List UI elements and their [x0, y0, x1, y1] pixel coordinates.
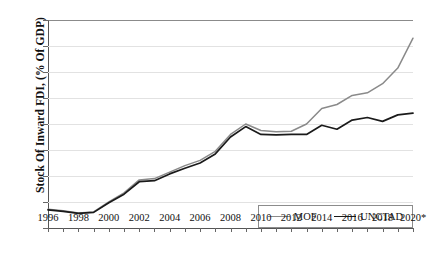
x-axis-tick	[48, 228, 49, 232]
x-axis-tick	[246, 228, 247, 232]
x-axis-tick	[154, 228, 155, 232]
x-axis-tick	[215, 228, 216, 232]
x-axis-tick	[200, 228, 201, 232]
series-line-mof	[48, 38, 413, 213]
x-axis-tick	[337, 228, 338, 232]
x-axis-tick	[124, 228, 125, 232]
x-axis-tick	[413, 228, 414, 232]
x-axis-tick	[63, 228, 64, 232]
x-axis-tick	[352, 228, 353, 232]
x-axis-tick	[139, 228, 140, 232]
x-axis-tick	[276, 228, 277, 232]
x-axis-tick	[94, 228, 95, 232]
series-line-unctad	[48, 113, 413, 213]
x-axis-tick-label: 2020*	[391, 212, 435, 223]
x-axis-tick	[398, 228, 399, 232]
x-axis-tick	[185, 228, 186, 232]
x-axis-tick	[322, 228, 323, 232]
x-axis-tick	[170, 228, 171, 232]
x-axis-tick	[307, 228, 308, 232]
x-axis-tick	[109, 228, 110, 232]
x-axis-tick	[367, 228, 368, 232]
series-container	[48, 20, 413, 228]
plot-area: MOFUNCTAD	[48, 20, 413, 228]
x-axis-tick	[231, 228, 232, 232]
x-axis-tick	[291, 228, 292, 232]
x-axis-tick	[78, 228, 79, 232]
fdi-stock-line-chart: Stock Of Inward FDI, (% Of GDP) MOFUNCTA…	[0, 0, 435, 263]
x-axis-tick	[261, 228, 262, 232]
x-axis-tick	[383, 228, 384, 232]
